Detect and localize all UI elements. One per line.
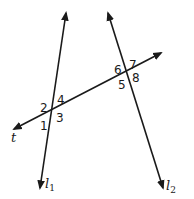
angle-label-2: 2: [40, 101, 48, 115]
angle-label-1: 1: [40, 119, 48, 133]
line-label-subscript: 1: [49, 183, 55, 193]
angle-label-8: 8: [132, 71, 140, 85]
line-label-t: t: [11, 130, 17, 145]
angle-label-4: 4: [57, 93, 65, 107]
angle-label-5: 5: [118, 78, 126, 92]
line-label-l1: l1: [45, 176, 55, 193]
line-t: [14, 53, 161, 129]
transversal-diagram: 12345678 l1l2t: [0, 0, 194, 199]
line-l2: [108, 13, 163, 188]
line-labels-layer: l1l2t: [11, 130, 176, 195]
line-label-l2: l2: [166, 178, 176, 195]
angle-label-3: 3: [56, 111, 64, 125]
angle-label-7: 7: [129, 58, 137, 72]
lines-layer: [14, 13, 163, 188]
angle-labels-layer: 12345678: [40, 58, 140, 133]
angle-label-6: 6: [114, 63, 122, 77]
line-label-subscript: 2: [170, 185, 176, 195]
